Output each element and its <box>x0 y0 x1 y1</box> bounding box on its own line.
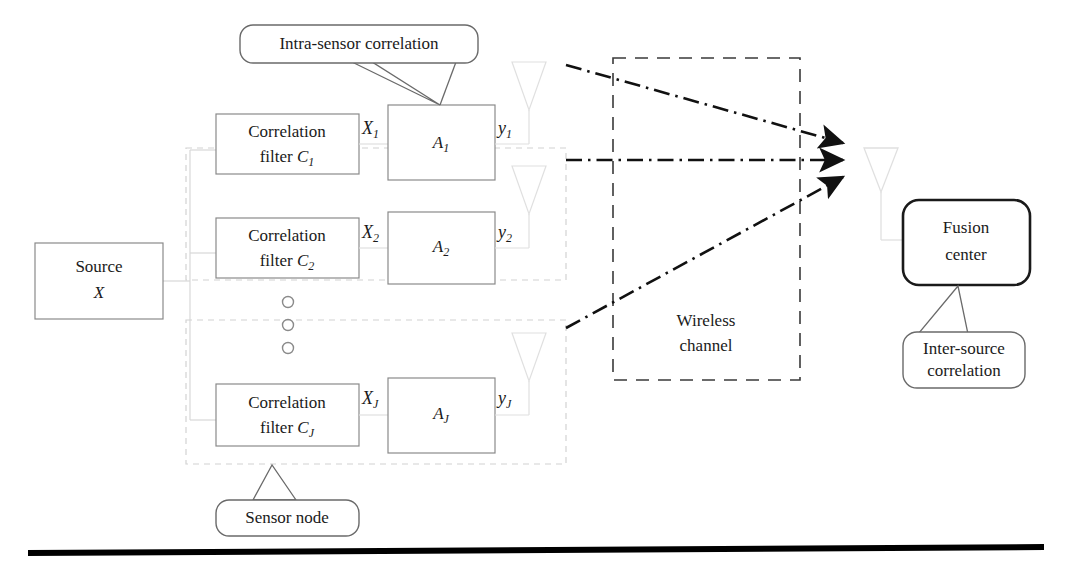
wireless-channel-box: Wireless channel <box>613 58 800 380</box>
signal-label-yj: yJ <box>496 388 512 411</box>
sensor-row-1: Correlation filter C1 X1 A1 y1 <box>216 62 546 180</box>
signal-label-y2: y2 <box>496 222 512 245</box>
fusion-center-label-line1: Fusion <box>943 218 990 237</box>
sensor-row-j: Correlation filter CJ XJ AJ yJ <box>216 333 546 453</box>
source-label-line2: X <box>93 283 105 302</box>
wireless-channel-label-line1: Wireless <box>677 311 736 330</box>
signal-label-x2: X2 <box>361 222 379 245</box>
wireless-channel-label-line2: channel <box>680 336 733 355</box>
signal-label-y1: y1 <box>496 118 512 141</box>
callout-inter-source-label-line2: correlation <box>927 361 1001 380</box>
callout-intra-sensor-correlation: Intra-sensor correlation <box>240 25 478 105</box>
source-box: Source X <box>35 243 163 319</box>
callout-sensor-node: Sensor node <box>216 465 359 536</box>
correlation-filter-label-1-line1: Correlation <box>248 122 326 141</box>
wireless-link-j <box>566 177 843 328</box>
signal-label-xj: XJ <box>361 388 379 411</box>
signal-label-x1: X1 <box>361 118 379 141</box>
source-distribution-bus <box>163 150 216 420</box>
wireless-link-1 <box>566 65 843 143</box>
callout-inter-source-correlation: Inter-source correlation <box>903 286 1025 388</box>
receive-antenna <box>864 148 906 240</box>
figure-canvas: Source X Correlation filter C1 X1 A1 y1 <box>0 0 1070 574</box>
correlation-filter-label-2-line1: Correlation <box>248 226 326 245</box>
correlation-filter-label-1-line2: filter C1 <box>260 147 315 169</box>
wireless-links <box>566 65 843 328</box>
fusion-center-box: Fusion center <box>903 200 1030 285</box>
correlation-filter-label-j-line2: filter CJ <box>260 418 315 440</box>
sensor-row-2: Correlation filter C2 X2 A2 y2 <box>216 166 546 284</box>
correlation-filter-label-j-line1: Correlation <box>248 393 326 412</box>
fusion-center-label-line2: center <box>945 245 987 264</box>
callout-sensor-node-label: Sensor node <box>245 508 329 527</box>
block-diagram: Source X Correlation filter C1 X1 A1 y1 <box>0 0 1070 574</box>
callout-inter-source-label-line1: Inter-source <box>923 339 1005 358</box>
vertical-ellipsis <box>283 297 294 354</box>
callout-intra-sensor-label: Intra-sensor correlation <box>279 34 439 53</box>
correlation-filter-label-2-line2: filter C2 <box>260 251 315 273</box>
source-label-line1: Source <box>75 257 122 276</box>
bottom-rule <box>28 547 1044 553</box>
